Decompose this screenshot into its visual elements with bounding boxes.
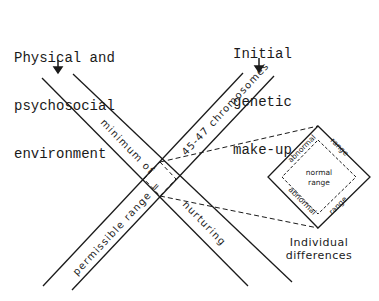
- genetic-band: [43, 73, 274, 290]
- individual-differences-label: Individual differences: [283, 236, 355, 262]
- down-arrow-icon: [54, 60, 62, 73]
- individual-label-line2: differences: [283, 249, 355, 262]
- band-text-permissible-range: permissible range =: [70, 179, 163, 277]
- diamond-text-normal: normal: [306, 168, 332, 177]
- environment-band: [42, 74, 292, 286]
- diamond-text-range: range: [308, 178, 330, 187]
- band-text-chromosomes: 45-47 chromosomes: [179, 60, 271, 157]
- individual-label-line1: Individual: [283, 236, 355, 249]
- diagram-canvas: Physical and psychosocial environment In…: [0, 0, 379, 301]
- band-text-nurturing: nurturing: [181, 199, 229, 248]
